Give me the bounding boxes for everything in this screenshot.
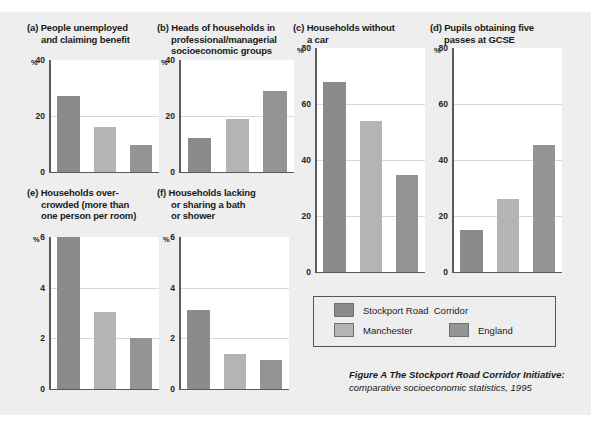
y-tick-label-b-20: 20	[157, 111, 175, 121]
y-tick-label-a-40: 40	[27, 55, 45, 65]
y-tick-label-f-4: 4	[157, 283, 175, 293]
chart-title-a: (a) People unemployed and claiming benef…	[27, 22, 159, 45]
chart-panel-b: (b) Heads of households in professional/…	[157, 22, 294, 57]
y-tick-label-a-20: 20	[27, 111, 45, 121]
axes-e	[49, 237, 159, 389]
chart-title-f: (f) Households lacking or sharing a bath…	[157, 187, 289, 222]
y-tick-label-e-0: 0	[27, 384, 45, 394]
y-tick-label-d-40: 40	[430, 155, 448, 165]
legend-swatch-stockport-road-corridor	[334, 303, 354, 317]
bar-c-2	[360, 121, 382, 272]
legend-swatch-manchester	[334, 323, 354, 337]
bar-b-1	[188, 138, 211, 172]
y-tick-label-b-0: 0	[157, 167, 175, 177]
y-tick-label-e-6: 6	[27, 232, 45, 242]
chart-title-d: (d) Pupils obtaining five passes at GCSE	[430, 22, 562, 45]
legend-label-manchester: Manchester	[363, 325, 413, 336]
y-tick-label-c-60: 60	[293, 99, 311, 109]
plot-area-f: % 0246	[157, 237, 289, 389]
axes-b	[179, 60, 294, 172]
axes-a	[49, 60, 159, 172]
chart-panel-e: (e) Households over- crowded (more than …	[27, 187, 159, 222]
y-tick-label-d-60: 60	[430, 99, 448, 109]
bar-a-1	[57, 96, 79, 172]
y-tick-label-d-80: 80	[430, 43, 448, 53]
chart-panel-c: (c) Households without a car % 020406080	[293, 22, 425, 45]
legend-item-stockport-road-corridor: Stockport Road Corridor	[334, 303, 468, 317]
y-tick-label-b-40: 40	[157, 55, 175, 65]
bar-f-1	[187, 310, 209, 389]
chart-title-e: (e) Households over- crowded (more than …	[27, 187, 159, 222]
y-tick-label-d-20: 20	[430, 211, 448, 221]
bar-e-2	[94, 312, 116, 389]
bar-d-3	[533, 145, 555, 272]
chart-title-c: (c) Households without a car	[293, 22, 425, 45]
legend-item-manchester: Manchester	[334, 323, 413, 337]
y-tick-label-e-2: 2	[27, 333, 45, 343]
y-axis-line-f	[179, 237, 181, 389]
figure-container: (a) People unemployed and claiming benef…	[0, 12, 591, 415]
y-tick-label-c-20: 20	[293, 211, 311, 221]
legend-label-england: England	[478, 325, 513, 336]
chart-title-b: (b) Heads of households in professional/…	[157, 22, 294, 57]
bar-a-3	[130, 145, 152, 172]
y-axis-line-a	[49, 60, 51, 172]
y-tick-label-c-40: 40	[293, 155, 311, 165]
axes-d	[452, 48, 562, 272]
y-tick-label-c-80: 80	[293, 43, 311, 53]
gridline-d-60	[454, 104, 562, 105]
plot-area-b: % 02040	[157, 60, 294, 172]
bar-e-3	[130, 338, 152, 389]
axes-f	[179, 237, 289, 389]
legend-label-stockport-road-corridor: Stockport Road Corridor	[363, 305, 468, 316]
x-axis-line-e	[49, 389, 159, 390]
y-axis-line-b	[179, 60, 181, 172]
x-axis-line-d	[452, 272, 562, 273]
figure-caption: Figure A The Stockport Road Corridor Ini…	[349, 368, 584, 394]
chart-panel-a: (a) People unemployed and claiming benef…	[27, 22, 159, 45]
y-axis-line-d	[452, 48, 454, 272]
y-tick-label-c-0: 0	[293, 267, 311, 277]
bar-e-1	[57, 237, 79, 389]
y-tick-label-f-2: 2	[157, 333, 175, 343]
y-tick-label-f-0: 0	[157, 384, 175, 394]
x-axis-line-a	[49, 172, 159, 173]
bar-f-3	[260, 360, 282, 389]
legend-item-england: England	[449, 323, 513, 337]
legend: Stockport Road Corridor Manchester Engla…	[313, 296, 556, 347]
x-axis-line-b	[179, 172, 294, 173]
bar-d-2	[497, 199, 519, 272]
y-tick-label-f-6: 6	[157, 232, 175, 242]
bar-a-2	[94, 127, 116, 172]
chart-panel-f: (f) Households lacking or sharing a bath…	[157, 187, 289, 222]
y-tick-label-a-0: 0	[27, 167, 45, 177]
y-axis-line-c	[315, 48, 317, 272]
plot-area-d: % 020406080	[430, 48, 562, 272]
x-axis-line-c	[315, 272, 425, 273]
chart-panel-d: (d) Pupils obtaining five passes at GCSE…	[430, 22, 562, 45]
bar-b-2	[226, 119, 249, 172]
bar-b-3	[263, 91, 286, 172]
axes-c	[315, 48, 425, 272]
y-axis-line-e	[49, 237, 51, 389]
figure-caption-line-1: Figure A The Stockport Road Corridor Ini…	[349, 368, 584, 381]
y-tick-label-e-4: 4	[27, 283, 45, 293]
bar-d-1	[460, 230, 482, 272]
bar-c-1	[323, 82, 345, 272]
plot-area-c: % 020406080	[293, 48, 425, 272]
y-tick-label-d-0: 0	[430, 267, 448, 277]
gridline-f-4	[181, 288, 289, 289]
bar-c-3	[396, 175, 418, 272]
x-axis-line-f	[179, 389, 289, 390]
figure-caption-line-2: comparative socioeconomic statistics, 19…	[349, 381, 584, 394]
bar-f-2	[224, 354, 246, 389]
plot-area-e: % 0246	[27, 237, 159, 389]
plot-area-a: % 02040	[27, 60, 159, 172]
legend-swatch-england	[449, 323, 469, 337]
